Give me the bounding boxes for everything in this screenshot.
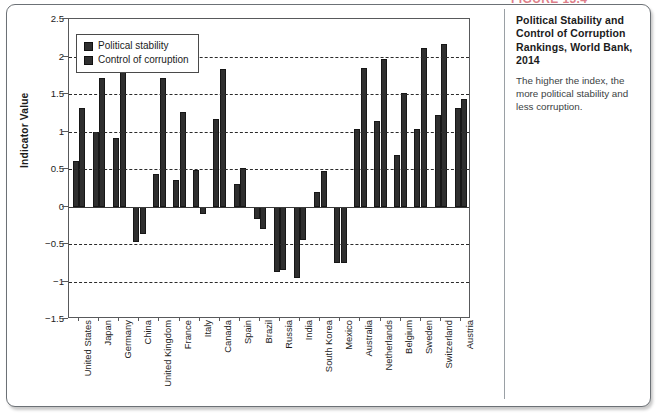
x-axis-tick-label: Belgium xyxy=(403,320,414,354)
bar xyxy=(73,161,79,207)
x-axis-tick-mark xyxy=(279,317,280,321)
x-axis-tick-mark xyxy=(359,317,360,321)
bar xyxy=(435,115,441,207)
x-axis-tick-mark xyxy=(98,317,99,321)
x-axis-tick-label: Switzerland xyxy=(443,320,454,368)
bar xyxy=(234,184,240,207)
bar-group xyxy=(213,19,226,317)
x-axis-tick-mark xyxy=(380,317,381,321)
bar xyxy=(153,174,159,207)
x-axis-tick-mark xyxy=(118,317,119,321)
bar-group xyxy=(374,19,387,317)
x-axis-tick-label: South Korea xyxy=(323,320,334,372)
x-axis-tick-label: Netherlands xyxy=(383,320,394,371)
y-axis-title: Indicator Value xyxy=(19,93,30,168)
bar xyxy=(314,192,320,207)
x-axis-tick-mark xyxy=(239,317,240,321)
bar xyxy=(300,207,306,241)
x-axis-tick-label: Australia xyxy=(363,320,374,356)
bar-group xyxy=(274,19,287,317)
gridline xyxy=(69,94,469,95)
x-axis-tick-label: Germany xyxy=(122,320,133,359)
legend-swatch-icon xyxy=(84,56,93,65)
bar xyxy=(140,207,146,234)
x-axis-tick-label: Austria xyxy=(464,320,475,349)
bar xyxy=(461,99,467,206)
bar-group xyxy=(435,19,448,317)
bar xyxy=(381,59,387,207)
bar xyxy=(240,168,246,207)
x-axis-tick-mark xyxy=(199,317,200,321)
bar xyxy=(193,170,199,207)
bar xyxy=(341,207,347,263)
x-axis-tick-mark xyxy=(138,317,139,321)
x-axis-tick-mark xyxy=(299,317,300,321)
x-axis-tick-mark xyxy=(179,317,180,321)
bar xyxy=(220,69,226,207)
x-axis-tick-label: Mexico xyxy=(343,320,354,350)
x-axis-tick-label: Japan xyxy=(102,320,113,346)
bar xyxy=(441,44,447,207)
chart-legend: Political stabilityControl of corruption xyxy=(76,34,199,73)
gridline xyxy=(69,244,469,245)
x-axis-tick-mark xyxy=(319,317,320,321)
bar-group xyxy=(455,19,468,317)
bar xyxy=(294,207,300,278)
x-axis-tick-mark xyxy=(219,317,220,321)
x-axis-tick-mark xyxy=(400,317,401,321)
gridline xyxy=(69,282,469,283)
bar-group xyxy=(394,19,407,317)
x-axis-tick-mark xyxy=(78,317,79,321)
y-axis-tick-mark xyxy=(62,318,68,319)
legend-label: Political stability xyxy=(98,39,169,53)
bar xyxy=(334,207,340,263)
bar-group xyxy=(354,19,367,317)
legend-item: Control of corruption xyxy=(84,53,189,67)
bar xyxy=(99,78,105,207)
x-axis-tick-label: France xyxy=(182,320,193,349)
y-axis: 2.521.510.50−0.5−1−1.5 xyxy=(0,18,68,318)
gridline xyxy=(69,132,469,133)
bar xyxy=(180,112,186,207)
x-axis-tick-mark xyxy=(460,317,461,321)
x-axis-tick-mark xyxy=(259,317,260,321)
bar xyxy=(133,207,139,242)
bar xyxy=(374,121,380,207)
x-axis-tick-label: United States xyxy=(82,320,93,376)
caption-title: Political Stability and Control of Corru… xyxy=(516,14,644,68)
bar xyxy=(120,71,126,207)
x-axis-tick-mark xyxy=(440,317,441,321)
bar-group xyxy=(314,19,327,317)
bar xyxy=(274,207,280,272)
bar xyxy=(79,108,85,206)
caption-body: The higher the index, the more political… xyxy=(516,74,644,114)
bar-group xyxy=(254,19,267,317)
bar xyxy=(394,155,400,207)
bar xyxy=(401,93,407,207)
bar xyxy=(200,207,206,215)
x-axis-tick-label: China xyxy=(142,320,153,345)
x-axis-tick-mark xyxy=(420,317,421,321)
x-axis-labels: United StatesJapanGermanyChinaUnited Kin… xyxy=(68,320,470,416)
x-axis-tick-label: Spain xyxy=(242,320,253,344)
x-axis-tick-mark xyxy=(158,317,159,321)
legend-swatch-icon xyxy=(84,42,93,51)
bar xyxy=(455,108,461,206)
figure-page: FIGURE 13.4 Political Stability and Cont… xyxy=(0,0,668,420)
bar xyxy=(160,78,166,207)
x-axis-tick-label: Sweden xyxy=(423,320,434,354)
bar xyxy=(260,207,266,230)
bar xyxy=(173,180,179,206)
x-axis-tick-label: Italy xyxy=(202,320,213,337)
bar xyxy=(414,129,420,207)
bar-group xyxy=(334,19,347,317)
bar xyxy=(421,48,427,207)
bar-group xyxy=(414,19,427,317)
bar xyxy=(361,68,367,207)
legend-item: Political stability xyxy=(84,39,189,53)
x-axis-tick-label: Russia xyxy=(283,320,294,349)
bar xyxy=(321,171,327,207)
x-axis-tick-label: Canada xyxy=(222,320,233,353)
x-axis-tick-mark xyxy=(339,317,340,321)
bar xyxy=(354,129,360,207)
